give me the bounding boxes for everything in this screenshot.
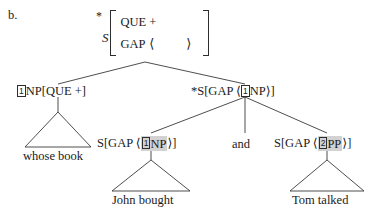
angle-open-icon: ⟨ xyxy=(313,136,318,150)
node-right-prefix: *S[GAP xyxy=(191,84,236,98)
index-box-1: 1 xyxy=(241,85,250,97)
root-feature-matrix: QUE + GAP ⟨⟩ xyxy=(110,10,209,56)
edge-root-to-left xyxy=(58,62,145,84)
node-conjunct-left-tag: NP xyxy=(150,136,166,150)
root-ungrammatical-star: * xyxy=(96,10,102,22)
root-category-label: S xyxy=(102,30,109,46)
angle-open-icon: ⟨ xyxy=(136,136,141,150)
node-conjunct-left-suffix: ] xyxy=(172,136,176,150)
feature-attribute-gap: GAP xyxy=(121,37,146,51)
edge-root-to-right xyxy=(145,62,245,84)
triangle-john-bought xyxy=(112,160,190,191)
node-conjunct-right-tag: PP xyxy=(327,136,341,150)
node-conjunct-left: S[GAP ⟨1NP⟩] xyxy=(97,137,176,150)
node-conjunct-right-prefix: S[GAP xyxy=(274,136,313,150)
leaf-whose-book: whose book xyxy=(23,150,83,163)
node-conjunct-left-prefix: S[GAP xyxy=(97,136,136,150)
feature-attribute-que: QUE xyxy=(121,15,147,29)
gap-value-highlight: 2PP xyxy=(318,136,343,151)
figure-canvas: b. * S QUE + GAP ⟨⟩ 1NP[QUE +] *S[GAP ⟨1… xyxy=(0,0,385,212)
index-box-1: 1 xyxy=(17,85,26,97)
node-conjunct-right: S[GAP ⟨2PP⟩] xyxy=(274,137,351,150)
angle-close-icon: ⟩ xyxy=(185,36,192,51)
node-right-daughter: *S[GAP ⟨1NP⟩] xyxy=(191,85,275,98)
feature-rows: QUE + GAP ⟨⟩ xyxy=(116,10,203,56)
gap-value-highlight: 1NP xyxy=(141,136,168,151)
leaf-john-bought: John bought xyxy=(112,194,173,207)
node-right-suffix: ] xyxy=(271,84,275,98)
triangle-whose-book xyxy=(25,112,91,147)
leaf-tom-talked: Tom talked xyxy=(292,194,348,207)
triangle-tom-talked xyxy=(290,160,364,191)
angle-open-icon: ⟨ xyxy=(148,36,155,51)
root-node: * S QUE + GAP ⟨⟩ xyxy=(96,8,209,58)
node-conjunction: and xyxy=(232,137,250,152)
item-label: b. xyxy=(8,8,17,23)
feature-value-que: + xyxy=(149,15,156,29)
node-left-daughter-label: NP[QUE +] xyxy=(26,84,86,98)
feature-row-que: QUE + xyxy=(121,12,199,32)
node-right-tag: NP xyxy=(250,84,266,98)
edge-right-to-conjunct-left xyxy=(151,97,245,133)
edge-right-to-conjunct-right xyxy=(245,97,327,133)
node-left-daughter: 1NP[QUE +] xyxy=(17,85,86,98)
bracket-right-icon xyxy=(203,10,209,56)
feature-row-gap: GAP ⟨⟩ xyxy=(121,33,199,54)
node-conjunct-right-suffix: ] xyxy=(347,136,351,150)
